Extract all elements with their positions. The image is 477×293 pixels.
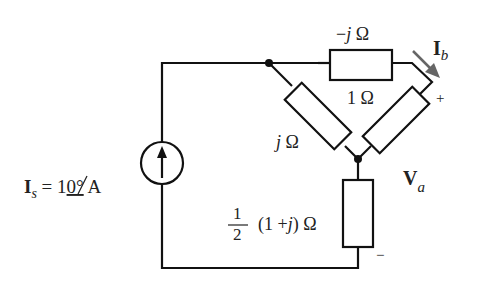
label-bottom-frac-num: 1 <box>233 204 242 223</box>
source-label: Is = 10° A <box>24 176 101 201</box>
label-bottom-frac-den: 2 <box>233 225 242 244</box>
label-current-ib: Ib <box>433 37 449 63</box>
node-top-left <box>265 59 273 67</box>
node-bottom <box>354 155 362 163</box>
label-voltage-va: Va <box>403 167 425 195</box>
resistor-top <box>330 50 392 80</box>
label-left-diag: j Ω <box>274 132 299 152</box>
wire-left-diag-top <box>269 63 292 86</box>
circuit-diagram: Is = 10° A −j Ω 1 Ω j Ω 1 2 (1 +j) Ω Ib … <box>0 0 477 293</box>
label-minus: − <box>376 247 384 263</box>
label-right-diag: 1 Ω <box>347 88 374 108</box>
label-bottom-resistor: (1 +j) Ω <box>258 214 317 235</box>
label-top-resistor: −j Ω <box>336 24 369 44</box>
current-source <box>141 142 183 184</box>
label-plus: + <box>436 90 444 106</box>
resistor-bottom <box>343 180 373 247</box>
